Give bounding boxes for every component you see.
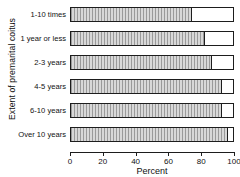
bar-fill — [71, 56, 212, 69]
plot-area — [70, 0, 234, 152]
x-axis-tick-label: 0 — [55, 157, 85, 166]
x-axis-tick — [103, 152, 104, 156]
x-axis-tick-label: 60 — [153, 157, 183, 166]
bar-fill — [71, 80, 222, 93]
bar-row — [70, 7, 234, 22]
category-label: 2-3 years — [6, 58, 66, 67]
bar-row — [70, 127, 234, 142]
x-axis-tick — [234, 152, 235, 156]
bar-row — [70, 55, 234, 70]
x-axis-tick-label: 20 — [88, 157, 118, 166]
bar-fill — [71, 128, 228, 141]
x-axis-tick-label: 40 — [121, 157, 151, 166]
x-axis-tick — [168, 152, 169, 156]
x-axis-tick — [70, 152, 71, 156]
bar-row — [70, 103, 234, 118]
x-axis-title: Percent — [70, 166, 234, 176]
x-axis-tick — [201, 152, 202, 156]
x-axis-tick — [136, 152, 137, 156]
bar-fill — [71, 104, 222, 117]
category-label-list: 1-10 times1 year or less2-3 years4-5 yea… — [6, 0, 68, 152]
x-axis-tick-label: 100 — [219, 157, 240, 166]
category-label: Over 10 years — [6, 130, 66, 139]
bar-row — [70, 31, 234, 46]
x-axis-tick-label: 80 — [186, 157, 216, 166]
category-label: 4-5 years — [6, 82, 66, 91]
bar-fill — [71, 8, 192, 21]
category-label: 1-10 times — [6, 10, 66, 19]
bar-row — [70, 79, 234, 94]
bar-chart: Extent of premarital coitus 1-10 times1 … — [0, 0, 240, 177]
x-axis-line — [70, 152, 234, 153]
bar-fill — [71, 32, 205, 45]
category-label: 6-10 years — [6, 106, 66, 115]
category-label: 1 year or less — [6, 34, 66, 43]
